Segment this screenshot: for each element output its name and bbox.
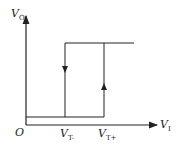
hysteresis-diagram bbox=[0, 0, 179, 149]
down-arrow-icon bbox=[62, 66, 68, 73]
up-arrow-icon bbox=[101, 83, 107, 90]
origin-label: O bbox=[15, 127, 24, 138]
threshold-high-label: VT+ bbox=[98, 128, 117, 142]
x-axis-label: VI bbox=[160, 119, 171, 133]
threshold-low-label: VT- bbox=[60, 128, 74, 142]
y-axis-label: VO bbox=[11, 8, 25, 22]
